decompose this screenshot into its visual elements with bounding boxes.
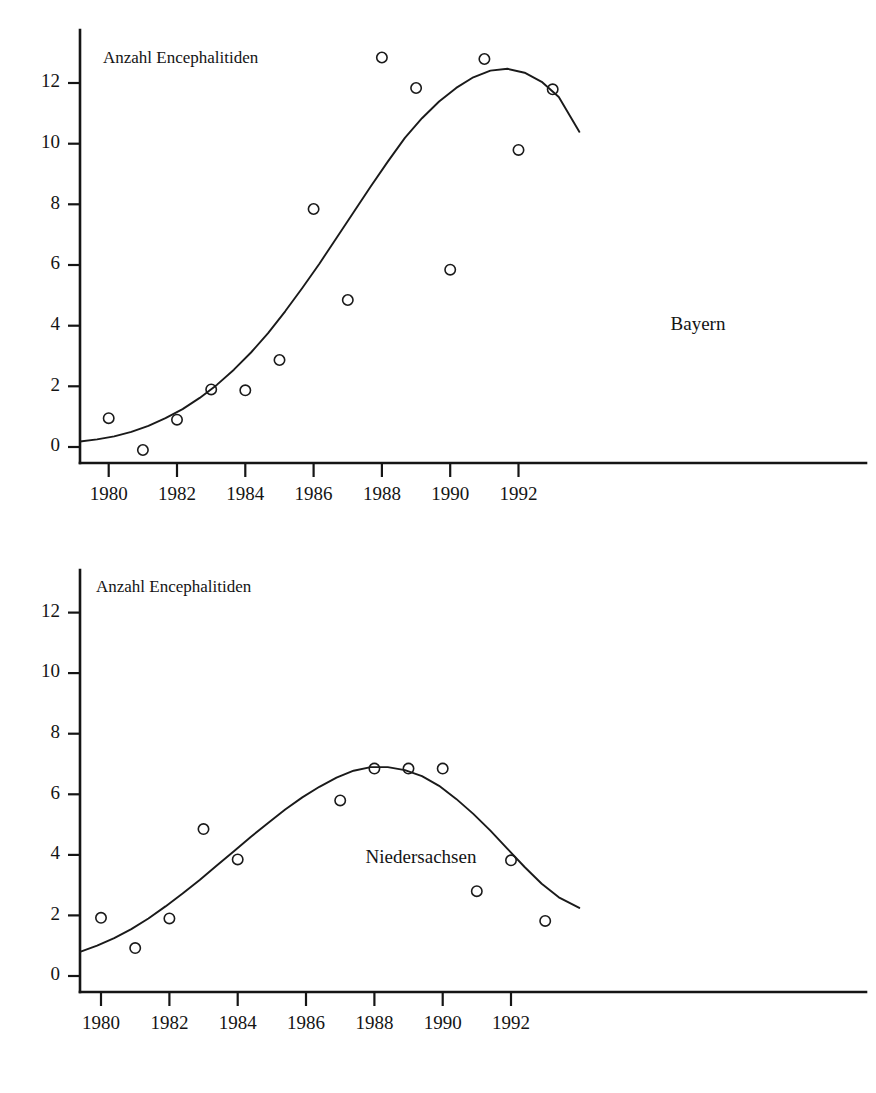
x-tick-label-1988: 1988 [355,1012,393,1033]
data-point-1981 [138,445,148,455]
data-markers-niedersachsen [96,763,551,953]
data-point-1986 [308,204,318,214]
fitted-curve-bayern [80,69,579,442]
data-point-1991 [472,886,482,896]
data-point-1992 [513,145,523,155]
x-tick-label-1980: 1980 [90,483,128,504]
x-tick-label-1980: 1980 [82,1012,120,1033]
x-tick-label-1990: 1990 [431,483,469,504]
series-label-niedersachsen: Niedersachsen [366,846,477,867]
data-point-1984 [233,854,243,864]
data-point-1982 [164,913,174,923]
x-tick-label-1984: 1984 [219,1012,258,1033]
x-axis-ticks: 1980 1982 1984 1986 1988 1990 1992 [82,992,530,1033]
data-point-1982 [172,415,182,425]
data-point-1985 [274,355,284,365]
fitted-curve-niedersachsen [80,767,579,952]
y-tick-label-4: 4 [51,313,61,334]
y-tick-label-10: 10 [41,131,60,152]
y-axis-title: Anzahl Encephalitiden [96,577,252,596]
y-tick-label-10: 10 [41,660,60,681]
y-tick-label-8: 8 [51,192,61,213]
data-point-1987 [335,795,345,805]
x-tick-label-1992: 1992 [492,1012,530,1033]
x-tick-label-1990: 1990 [424,1012,462,1033]
chart-panel-niedersachsen: 0 2 4 6 8 10 12 1980 1982 [0,540,876,1093]
x-axis-ticks: 1980 1982 1984 1986 1988 1990 1992 [90,463,538,504]
y-tick-label-8: 8 [51,721,61,742]
data-point-1988 [369,763,379,773]
y-axis-ticks: 0 2 4 6 8 10 12 [41,70,80,455]
data-point-1983 [198,824,208,834]
chart-panel-bayern: 0 2 4 6 8 10 12 1980 1982 [0,0,876,546]
x-tick-label-1986: 1986 [287,1012,325,1033]
y-tick-label-0: 0 [51,963,61,984]
x-tick-label-1988: 1988 [363,483,401,504]
data-point-1993 [540,916,550,926]
y-tick-label-2: 2 [51,903,61,924]
data-point-1987 [343,295,353,305]
data-point-1980 [104,413,114,423]
data-point-1980 [96,913,106,923]
data-point-1991 [479,54,489,64]
data-point-1990 [438,763,448,773]
x-tick-label-1982: 1982 [158,483,196,504]
data-point-1992 [506,855,516,865]
y-tick-label-6: 6 [51,782,61,803]
data-point-1988 [377,52,387,62]
y-axis-ticks: 0 2 4 6 8 10 12 [41,600,80,984]
y-tick-label-12: 12 [41,600,60,621]
data-point-1989 [411,83,421,93]
x-tick-label-1992: 1992 [500,483,538,504]
series-label-bayern: Bayern [671,313,726,334]
figure-page: 0 2 4 6 8 10 12 1980 1982 [0,0,876,1093]
y-tick-label-12: 12 [41,70,60,91]
data-point-1990 [445,265,455,275]
data-markers-bayern [104,52,558,455]
x-tick-label-1984: 1984 [226,483,265,504]
x-tick-label-1986: 1986 [295,483,333,504]
y-axis-title: Anzahl Encephalitiden [103,48,259,67]
niedersachsen-scatter-plot: 0 2 4 6 8 10 12 1980 1982 [0,540,876,1093]
y-tick-label-6: 6 [51,252,61,273]
y-tick-label-4: 4 [51,842,61,863]
data-point-1984 [240,385,250,395]
data-point-1981 [130,943,140,953]
bayern-scatter-plot: 0 2 4 6 8 10 12 1980 1982 [0,0,876,546]
x-tick-label-1982: 1982 [150,1012,188,1033]
y-tick-label-2: 2 [51,374,61,395]
y-tick-label-0: 0 [51,434,61,455]
